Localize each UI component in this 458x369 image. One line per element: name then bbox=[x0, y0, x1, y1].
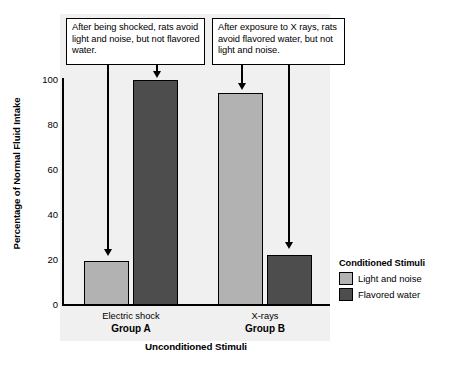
x-group-label-b: X-rays Group B bbox=[215, 310, 315, 335]
bar-group-b-light-and-noise bbox=[218, 93, 263, 305]
y-tick-100: 100 bbox=[34, 74, 58, 85]
legend-label-flavored-water: Flavored water bbox=[358, 289, 420, 300]
bar-group-a-flavored-water bbox=[133, 80, 178, 305]
y-axis-title: Percentage of Normal Fluid Intake bbox=[11, 74, 22, 274]
y-tick-20: 20 bbox=[34, 254, 58, 265]
y-axis-ticks: 100 80 60 40 20 0 bbox=[34, 0, 58, 369]
y-tick-60: 60 bbox=[34, 164, 58, 175]
legend-label-light-and-noise: Light and noise bbox=[358, 273, 422, 284]
legend-item-light-and-noise: Light and noise bbox=[339, 272, 454, 285]
x-group-b-name: Group B bbox=[215, 323, 315, 336]
y-tick-0: 0 bbox=[34, 299, 58, 310]
legend-swatch-flavored-water bbox=[339, 288, 353, 301]
legend-title: Conditioned Stimuli bbox=[339, 258, 454, 268]
x-group-b-stimulus: X-rays bbox=[215, 310, 315, 323]
legend-item-flavored-water: Flavored water bbox=[339, 288, 454, 301]
x-group-a-name: Group A bbox=[81, 323, 181, 336]
legend: Conditioned Stimuli Light and noise Flav… bbox=[339, 258, 454, 304]
y-tick-80: 80 bbox=[34, 119, 58, 130]
x-group-a-stimulus: Electric shock bbox=[81, 310, 181, 323]
y-tick-40: 40 bbox=[34, 209, 58, 220]
legend-swatch-light-and-noise bbox=[339, 272, 353, 285]
annotation-callout-group-a: After being shocked, rats avoid light an… bbox=[66, 18, 205, 65]
x-group-label-a: Electric shock Group A bbox=[81, 310, 181, 335]
y-axis-line bbox=[62, 78, 64, 306]
bar-group-b-flavored-water bbox=[267, 255, 312, 305]
chart-figure: After being shocked, rats avoid light an… bbox=[0, 0, 458, 369]
annotation-callout-group-b: After exposure to X rays, rats avoid fla… bbox=[212, 18, 345, 65]
x-axis-title: Unconditioned Stimuli bbox=[62, 341, 330, 352]
bar-group-a-light-and-noise bbox=[84, 261, 129, 305]
